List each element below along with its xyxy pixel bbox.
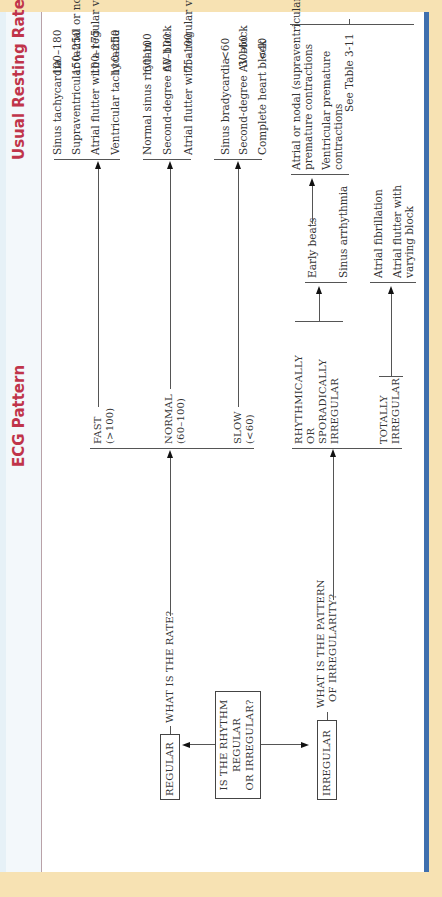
header-ecg-pattern: ECG Pattern [10,365,28,467]
rhythmic-label-2: OR [305,428,317,444]
rhythmic-label-4: IRREGULAR [329,378,341,444]
rate-value: 30–60 [237,35,249,67]
arrow-line-to-regular [190,744,215,745]
early-beat-type: Ventricular premature [320,51,332,170]
normal-label: NORMAL [163,394,175,444]
rhythmic-label-3: SPORADICALLY [317,359,329,444]
diagnosis: Supraventricular (atrial or nodal) tachy… [70,0,82,155]
pattern-arrow-line [333,455,334,600]
rate-value: <60 [219,38,231,60]
rate-value: <40 [256,38,268,60]
rhythmic-label-1: RHYTHMICALLY [293,355,305,444]
totally-label-2: IRREGULAR [390,378,402,444]
arrow-down-icon [301,742,309,748]
irregular-question-line2: OF IRREGULARITY? [327,594,339,702]
rate-value: 110–250 [109,30,121,75]
arrow-right-icon [95,161,101,169]
irregular-branch-bar [292,448,402,449]
rate-value: 60–100 [141,33,153,72]
page: ECG Pattern Usual Resting Rate IS THE RH… [0,12,429,872]
slow-label: SLOW [232,411,244,444]
regular-question: WHAT IS THE RATE? [164,611,176,723]
regular-label: REGULAR [164,742,176,796]
connector [170,726,171,734]
root-question-line3: OR IRREGULAR? [244,694,256,796]
early-beat-type: Atrial or nodal (supraventricular) [290,0,302,170]
early-beats-types-bar [291,174,349,175]
header-usual-resting-rate: Usual Resting Rate [10,0,28,160]
atrial-fibrillation: Atrial fibrillation [372,189,384,278]
totally-label-1: TOTALLY [378,395,390,444]
diagnosis: Atrial flutter with a regular ventricula… [182,0,194,155]
early-beat-type: premature contractions [302,44,314,170]
arrow-right-icon [167,161,173,169]
early-beat-type: contractions [332,104,344,170]
slow-diagnoses-bar [214,159,262,160]
root-question-box: IS THE RHYTHM REGULAR OR IRREGULAR? [215,691,261,799]
arrow-right-icon [330,449,336,457]
fast-range: (>100) [104,408,116,444]
normal-range: (60–100) [175,398,187,444]
sinus-arrhythmia: Sinus arrhythmia [337,186,349,278]
atrial-flutter-varying: varying block [403,206,415,278]
fast-diagnoses-bar [54,159,120,160]
irregular-box: IRREGULAR [317,720,337,800]
diagnosis: Sinus bradycardia [219,58,231,155]
normal-diagnoses-bar [143,159,191,160]
irregular-label: IRREGULAR [321,730,333,796]
normal-arrow-line [170,167,171,389]
regular-box: REGULAR [160,734,180,800]
rate-value: 100–175 [89,30,101,75]
rate-value: 60–100 [161,33,173,72]
accent-bar [424,12,429,872]
totally-items-bar [370,282,416,283]
root-question-line1: IS THE RHYTHM [218,694,230,796]
slow-arrow-line [238,167,239,407]
early-beats-arrow-line [312,184,313,224]
see-table-reference: See Table 3-11 [343,33,355,112]
rate-value: 75–100 [182,33,194,72]
rate-branch-bar [90,448,254,449]
early-beats: Early beats [306,218,318,278]
root-question-line2: REGULAR [231,694,243,796]
rate-value: 100–180 [51,30,63,75]
rate-value: 150–250 [70,30,82,75]
rhythmic-items-bar [305,282,347,283]
arrow-right-icon [235,161,241,169]
arrow-line-to-irregular [261,744,301,745]
brace-connector [319,292,320,322]
diagnosis: Atrial flutter with a regular ventricula… [89,0,101,155]
fast-arrow-line [98,167,99,407]
rotated-page: ECG Pattern Usual Resting Rate IS THE RH… [0,0,442,897]
atrial-flutter-varying: Atrial flutter with [391,185,403,278]
arrow-right-icon [309,178,315,186]
irregular-question-line1: WHAT IS THE PATTERN [315,579,327,708]
fast-label: FAST [92,416,104,444]
rate-arrow-line [170,456,171,616]
slow-range: (<60) [244,414,256,444]
totally-arrow-line [391,294,392,377]
arrow-right-icon [167,450,173,458]
see-table-brace [290,24,414,25]
arrow-right-icon [316,286,322,294]
arrow-right-icon [388,286,394,294]
connector [327,712,328,720]
arrow-up-icon [182,742,190,748]
header-divider [41,12,42,872]
brace-tip [349,19,350,25]
